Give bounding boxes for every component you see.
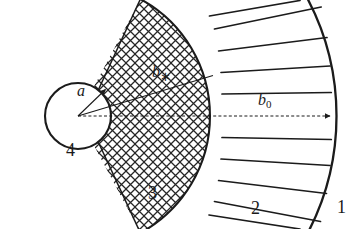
fan-line — [221, 66, 330, 73]
label-axis-b-zero-subscript: 0 — [266, 98, 272, 110]
label-radius-a: a — [77, 83, 85, 99]
label-zone-1: 1 — [337, 198, 346, 216]
label-body-4: 4 — [66, 141, 75, 159]
fan-line — [222, 138, 331, 140]
fan-zone-2 — [209, 1, 331, 230]
diagram-canvas — [0, 0, 359, 229]
fan-line — [215, 7, 322, 29]
label-ray-b-star-base: b — [152, 63, 160, 80]
outer-arc-1 — [305, 0, 337, 229]
label-axis-b-zero: b0 — [258, 92, 272, 110]
fan-line — [222, 93, 331, 95]
label-zone-2: 2 — [251, 199, 260, 217]
fan-line — [221, 159, 330, 166]
fan-line — [219, 38, 327, 52]
figure-root: a b∗ b0 1 2 3 4 — [0, 0, 359, 229]
label-ray-b-star-subscript: ∗ — [160, 69, 171, 84]
label-ray-b-star: b∗ — [152, 64, 171, 83]
fan-line — [219, 181, 327, 194]
label-zone-3: 3 — [148, 184, 157, 202]
label-axis-b-zero-base: b — [258, 91, 266, 108]
